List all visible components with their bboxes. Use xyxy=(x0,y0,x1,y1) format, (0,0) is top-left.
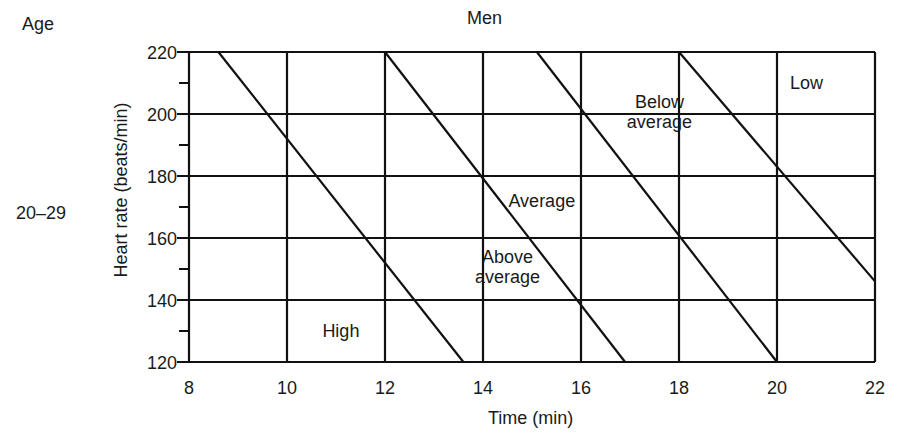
zone-boundary-line xyxy=(218,52,463,362)
zone-label: Belowaverage xyxy=(627,92,692,132)
zone-label: Low xyxy=(790,73,824,93)
y-tick-label: 200 xyxy=(147,105,177,125)
x-tick-label: 8 xyxy=(184,378,194,398)
x-tick-label: 16 xyxy=(571,378,591,398)
y-tick-label: 120 xyxy=(147,353,177,373)
x-tick-label: 22 xyxy=(865,378,885,398)
x-tick-label: 12 xyxy=(375,378,395,398)
y-tick-label: 220 xyxy=(147,43,177,63)
zone-label: High xyxy=(322,321,359,341)
zone-label: Aboveaverage xyxy=(475,247,540,287)
x-tick-label: 20 xyxy=(767,378,787,398)
zone-label: Average xyxy=(508,191,575,211)
zone-boundary-line xyxy=(385,52,625,362)
x-tick-label: 10 xyxy=(277,378,297,398)
y-tick-label: 140 xyxy=(147,291,177,311)
heart-rate-chart: 810121416182022120140160180200220 HighAb… xyxy=(0,0,902,444)
x-tick-label: 14 xyxy=(473,378,493,398)
y-tick-label: 160 xyxy=(147,229,177,249)
x-tick-label: 18 xyxy=(669,378,689,398)
y-tick-label: 180 xyxy=(147,167,177,187)
